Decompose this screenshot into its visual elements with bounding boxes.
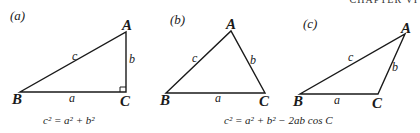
vertex-a: A [400,20,411,36]
figure-c: (c) A B C c b a [292,16,411,111]
law-of-cosines-equation: c² = a² + b² − 2ab cos C [224,114,333,126]
side-a: a [215,91,221,105]
side-c: c [192,51,198,65]
vertex-b: B [11,91,22,107]
vertex-a: A [121,17,132,33]
vertex-b: B [292,93,303,109]
side-c: c [348,50,354,64]
side-a: a [69,91,75,105]
side-b: b [250,53,256,67]
vertex-b: B [159,92,170,108]
pythagorean-equation: c² = a² + b² [43,114,95,126]
figure-c-label: (c) [303,16,317,31]
figure-b-label: (b) [170,12,185,27]
vertex-c: C [259,93,270,109]
vertex-a: A [225,16,236,32]
side-b: b [392,60,398,74]
right-angle-marker [120,87,126,92]
side-c: c [72,49,78,63]
obtuse-triangle [300,34,405,94]
vertex-c: C [372,95,383,111]
side-b: b [129,52,135,66]
law-of-cosines-diagram: (a) A B C c b a c² = a² + b² (b) A B C c… [0,0,420,133]
figure-a: (a) A B C c b a c² = a² + b² [10,8,135,126]
side-a: a [334,93,340,107]
figure-a-label: (a) [10,8,25,23]
figure-b: (b) A B C c b a [159,12,270,109]
vertex-c: C [120,93,131,109]
